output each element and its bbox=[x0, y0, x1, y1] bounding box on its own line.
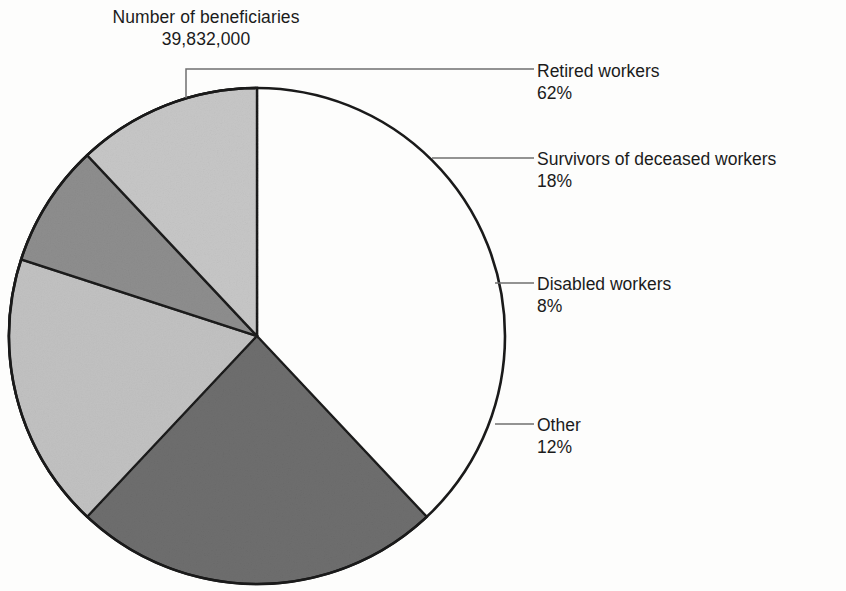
callout-retired-workers: Retired workers 62% bbox=[537, 60, 660, 104]
callout-label-disabled-workers: Disabled workers bbox=[537, 273, 671, 295]
callout-survivors-of-deceased-workers: Survivors of deceased workers 18% bbox=[537, 148, 776, 192]
callout-value-other: 12% bbox=[537, 436, 581, 458]
chart-canvas: Number of beneficiaries 39,832,000 bbox=[0, 0, 846, 591]
callout-value-disabled-workers: 8% bbox=[537, 295, 671, 317]
callout-other: Other 12% bbox=[537, 414, 581, 458]
callout-label-survivors-of-deceased-workers: Survivors of deceased workers bbox=[537, 148, 776, 170]
pie-chart bbox=[0, 0, 846, 591]
callout-value-survivors-of-deceased-workers: 18% bbox=[537, 170, 776, 192]
callout-label-other: Other bbox=[537, 414, 581, 436]
callout-label-retired-workers: Retired workers bbox=[537, 60, 660, 82]
callout-value-retired-workers: 62% bbox=[537, 82, 660, 104]
callout-disabled-workers: Disabled workers 8% bbox=[537, 273, 671, 317]
